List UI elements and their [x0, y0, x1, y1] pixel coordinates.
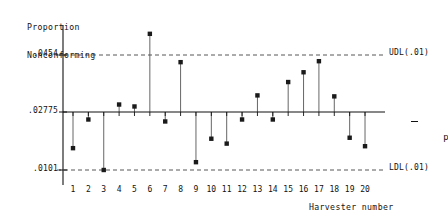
y-tick-label-center: .02775	[2, 107, 58, 116]
data-point-marker	[271, 117, 275, 121]
data-point-marker	[240, 117, 244, 121]
data-point-marker	[209, 137, 213, 141]
data-point-marker	[225, 141, 229, 145]
data-point-marker	[255, 93, 259, 97]
data-point-marker	[71, 146, 75, 150]
y-tick-label-udl: .0454	[8, 50, 58, 59]
y-tick-label-ldl: .0101	[8, 165, 58, 174]
data-point-marker	[347, 136, 351, 140]
y-axis-title: Proportion Nonconforming	[27, 5, 96, 79]
x-tick-label: 20	[355, 186, 375, 195]
data-point-marker	[194, 160, 198, 164]
data-point-marker	[117, 102, 121, 106]
data-point-marker	[363, 144, 367, 148]
control-chart: Proportion Nonconforming .0454 .02775 .0…	[0, 0, 448, 220]
data-point-marker	[301, 70, 305, 74]
overbar-glyph	[411, 121, 418, 122]
data-point-marker	[163, 119, 167, 123]
lower-control-limit-label: LDL(.01)	[389, 164, 429, 173]
data-point-marker	[178, 60, 182, 64]
x-axis-title: Harvester number	[309, 203, 393, 212]
y-axis-title-line-1: Proportion	[27, 23, 96, 32]
data-point-marker	[86, 117, 90, 121]
center-line-label-text: p	[443, 132, 448, 142]
data-point-marker	[286, 80, 290, 84]
data-point-marker	[132, 104, 136, 108]
data-point-marker	[102, 168, 106, 172]
center-line-label: p	[389, 112, 448, 162]
data-point-marker	[317, 59, 321, 63]
data-point-marker	[332, 94, 336, 98]
upper-control-limit-label: UDL(.01)	[389, 49, 429, 58]
data-point-marker	[148, 32, 152, 36]
